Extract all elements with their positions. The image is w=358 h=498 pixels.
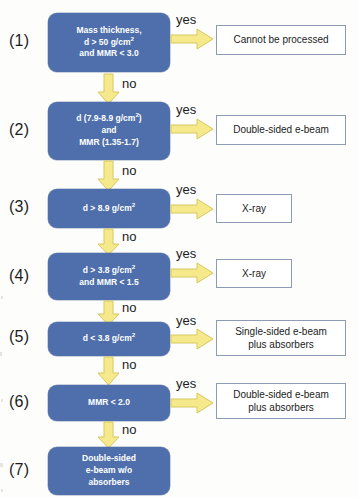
arrow-right-4 xyxy=(171,263,213,283)
edge-label-no-4: no xyxy=(122,300,136,315)
edge-label-yes-3: yes xyxy=(176,182,196,197)
scan-artifact xyxy=(1,296,3,299)
outcome-box-2[interactable]: Double-sided e-beam xyxy=(216,115,346,145)
edge-label-no-3: no xyxy=(122,229,136,244)
outcome-box-3[interactable]: X-ray xyxy=(216,194,292,223)
edge-label-no-5: no xyxy=(122,357,136,372)
arrow-down-2 xyxy=(98,161,119,191)
outcome-6-line-2: plus absorbers xyxy=(233,401,329,414)
outcome-box-5[interactable]: Single-sided e-beam plus absorbers xyxy=(216,320,346,356)
outcome-box-6[interactable]: Double-sided e-beam plus absorbers xyxy=(216,383,346,419)
outcome-5-line-2: plus absorbers xyxy=(235,338,327,351)
arrow-right-1 xyxy=(171,29,213,49)
arrow-down-6 xyxy=(98,422,119,448)
edge-label-yes-2: yes xyxy=(176,102,196,117)
arrow-down-5 xyxy=(98,357,119,385)
arrow-down-1 xyxy=(98,74,119,104)
decision-1-superscript: 2 xyxy=(131,35,134,42)
scan-artifact xyxy=(1,489,3,492)
decision-4-line-2: and MMR < 1.5 xyxy=(79,277,138,289)
decision-3-superscript: 2 xyxy=(132,201,135,208)
step-number-7: (7) xyxy=(9,461,29,479)
flowchart-canvas: (1) Mass thickness, d > 50 g/cm2 and MMR… xyxy=(0,0,358,498)
arrow-right-6 xyxy=(171,393,213,413)
outcome-6-line-1: Double-sided e-beam xyxy=(233,388,329,401)
decision-5-line-1: d < 3.8 g/cm xyxy=(83,333,132,343)
decision-box-4[interactable]: d > 3.8 g/cm2 and MMR < 1.5 xyxy=(48,253,170,300)
step-number-5: (5) xyxy=(9,328,29,346)
decision-2-line-2: and xyxy=(76,125,141,137)
decision-5-superscript: 2 xyxy=(132,331,135,338)
decision-4-superscript: 2 xyxy=(132,263,135,270)
decision-box-6[interactable]: MMR < 2.0 xyxy=(48,385,170,421)
decision-1-line-3: and MMR < 3.0 xyxy=(76,48,141,60)
edge-label-yes-5: yes xyxy=(176,313,196,328)
scan-artifact xyxy=(1,399,3,402)
edge-label-yes-1: yes xyxy=(176,12,196,27)
outcome-box-4[interactable]: X-ray xyxy=(216,259,292,288)
decision-2-line-3: MMR (1.35-1.7) xyxy=(76,137,141,149)
decision-box-3[interactable]: d > 8.9 g/cm2 xyxy=(48,189,170,228)
outcome-5-line-1: Single-sided e-beam xyxy=(235,325,327,338)
decision-box-5[interactable]: d < 3.8 g/cm2 xyxy=(48,322,170,356)
decision-2-line-1: d (7.9-8.9 g/cm xyxy=(76,113,135,123)
outcome-1-line-1: Cannot be processed xyxy=(233,33,328,46)
step-number-6: (6) xyxy=(9,393,29,411)
edge-label-no-1: no xyxy=(122,76,136,91)
arrow-right-2 xyxy=(171,119,213,139)
outcome-3-line-1: X-ray xyxy=(242,202,266,215)
scan-artifact xyxy=(0,352,2,356)
decision-3-line-1: d > 8.9 g/cm xyxy=(83,203,132,213)
arrow-down-3 xyxy=(98,229,119,255)
decision-7-line-2: e-beam w/o xyxy=(82,465,136,477)
outcome-2-line-1: Double-sided e-beam xyxy=(233,123,329,136)
decision-7-line-3: absorbers xyxy=(82,477,136,489)
scan-artifact xyxy=(0,463,3,467)
arrow-right-5 xyxy=(171,329,213,349)
decision-2-superscript: 2 xyxy=(135,112,138,119)
decision-1-line-2: d > 50 g/cm xyxy=(84,37,131,47)
edge-label-yes-6: yes xyxy=(176,376,196,391)
decision-box-7[interactable]: Double-sided e-beam w/o absorbers xyxy=(48,447,170,495)
arrow-right-3 xyxy=(171,199,213,219)
edge-label-no-2: no xyxy=(122,163,136,178)
edge-label-yes-4: yes xyxy=(176,246,196,261)
step-number-2: (2) xyxy=(9,121,29,139)
decision-4-line-1: d > 3.8 g/cm xyxy=(83,265,132,275)
outcome-4-line-1: X-ray xyxy=(242,267,266,280)
decision-box-1[interactable]: Mass thickness, d > 50 g/cm2 and MMR < 3… xyxy=(48,13,170,72)
decision-box-2[interactable]: d (7.9-8.9 g/cm2) and MMR (1.35-1.7) xyxy=(48,102,170,160)
edge-label-no-6: no xyxy=(122,422,136,437)
outcome-box-1[interactable]: Cannot be processed xyxy=(216,25,346,55)
step-number-3: (3) xyxy=(9,198,29,216)
step-number-4: (4) xyxy=(9,267,29,285)
decision-7-line-1: Double-sided xyxy=(82,453,136,465)
step-number-1: (1) xyxy=(9,32,29,50)
decision-6-line-1: MMR < 2.0 xyxy=(88,397,130,409)
